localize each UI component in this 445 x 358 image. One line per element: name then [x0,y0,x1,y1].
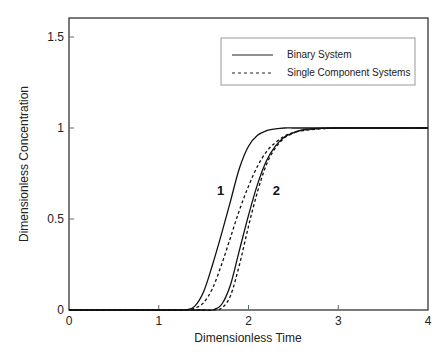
x-tick-label: 0 [66,314,73,328]
x-tick-label: 2 [245,314,252,328]
y-axis-ticks: 00.511.5 [47,30,74,317]
curve-label-2: 2 [273,183,280,198]
x-axis-title: Dimensionless Time [194,331,302,345]
y-axis-title: Dimensionless Concentration [17,86,31,242]
y-tick-label: 1 [57,121,64,135]
series-line-2 [69,128,428,310]
y-tick-label: 1.5 [47,30,64,44]
x-axis-ticks: 01234 [66,305,432,328]
curve-label-1: 1 [217,183,224,198]
legend-label-binary: Binary System [287,49,351,60]
legend-label-single: Single Component Systems [287,67,410,78]
y-tick-label: 0 [57,303,64,317]
legend: Binary System Single Component Systems [221,38,415,85]
series-line-1 [69,128,428,310]
series-line-3 [69,128,428,310]
curves [69,128,428,310]
x-tick-label: 4 [425,314,432,328]
x-tick-label: 3 [335,314,342,328]
x-tick-label: 1 [155,314,162,328]
series-line-4 [69,128,428,310]
y-tick-label: 0.5 [47,212,64,226]
chart: 00.511.5 01234 Binary System Single Comp… [0,0,445,358]
